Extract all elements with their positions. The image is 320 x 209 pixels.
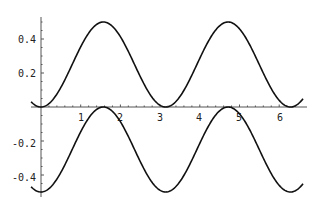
y-tick-label: 0.4 [18, 34, 36, 45]
x-tick-label: 4 [196, 112, 202, 123]
y-tick-label: -0.2 [12, 138, 36, 149]
series-sin-squared-curve [31, 22, 303, 107]
line-chart: 1 2 3 4 5 6 0.4 0.2 -0.2 -0.4 [0, 0, 320, 209]
x-tick-labels: 1 2 3 4 5 6 [78, 112, 283, 123]
series-neg-cos-squared-curve [31, 107, 303, 192]
x-axis: 1 2 3 4 5 6 [31, 105, 307, 124]
y-tick-labels: 0.4 0.2 -0.2 -0.4 [12, 34, 36, 183]
x-tick-label: 3 [157, 112, 163, 123]
x-tick-label: 6 [277, 112, 283, 123]
y-tick-label: -0.4 [12, 172, 36, 183]
x-tick-label: 1 [78, 112, 84, 123]
y-tick-label: 0.2 [18, 68, 36, 79]
